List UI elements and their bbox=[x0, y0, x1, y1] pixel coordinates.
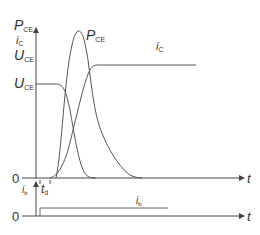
y-label-uce: UCE bbox=[14, 47, 34, 63]
uce-curve bbox=[36, 84, 96, 178]
y-label-pce: PCE bbox=[14, 17, 33, 33]
pce-curve-label: PCE bbox=[86, 27, 105, 43]
ib-curve bbox=[40, 208, 168, 216]
time-label-upper: t bbox=[247, 171, 252, 186]
ic-curve-label: iC bbox=[156, 40, 164, 53]
switching-waveform-diagram: PCE iC UCE UCE PCE iC ib ib td 0 0 t t bbox=[0, 0, 260, 235]
origin-upper: 0 bbox=[12, 171, 19, 186]
time-label-lower: t bbox=[247, 209, 252, 224]
lower-y-label-ib: ib bbox=[22, 184, 28, 196]
td-label: td bbox=[41, 182, 48, 196]
origin-lower: 0 bbox=[12, 209, 19, 224]
y-label-ic: iC bbox=[16, 34, 24, 47]
ib-curve-label: ib bbox=[136, 195, 142, 207]
uce-level-label: UCE bbox=[14, 75, 34, 91]
